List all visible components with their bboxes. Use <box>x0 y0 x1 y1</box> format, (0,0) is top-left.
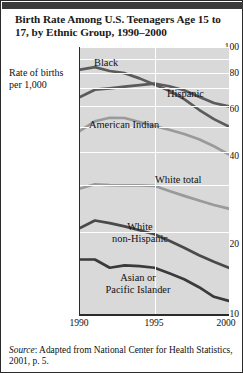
series-label-asian-pacific-islander-line2: Pacific Islander <box>106 284 171 295</box>
series-label-white-non-hispanic-line2: non-Hispanic <box>112 233 168 244</box>
source-text: : Adapted from National Center for Healt… <box>9 345 233 366</box>
series-label-asian-pacific-islander-line1: Asian or <box>120 272 156 283</box>
series-label-white-non-hispanic-line1: White <box>127 221 152 232</box>
source-prefix: Source <box>9 345 35 355</box>
plot-area: Black Hispanic American Indian White tot… <box>79 47 230 314</box>
series-label-hispanic: Hispanic <box>167 88 204 100</box>
x-tick-2000: 2000 <box>204 318 243 328</box>
x-tick-1995: 1995 <box>132 318 176 328</box>
series-label-white-non-hispanic: White non-Hispanic <box>98 221 182 244</box>
source-note: Source: Adapted from National Center for… <box>9 345 235 367</box>
series-label-white-total: White total <box>155 174 201 186</box>
x-tick-1990: 1990 <box>57 318 101 328</box>
series-label-american-indian: American Indian <box>89 119 159 131</box>
series-label-black: Black <box>94 57 118 69</box>
y-axis-label: Rate of births per 1,000 <box>9 67 71 92</box>
gridline-2000 <box>229 47 230 314</box>
x-axis-line <box>79 314 229 316</box>
figure-container: Birth Rate Among U.S. Teenagers Age 15 t… <box>0 0 243 373</box>
page-title: Birth Rate Among U.S. Teenagers Age 15 t… <box>15 13 235 39</box>
header-bar <box>2 2 243 9</box>
series-label-asian-pacific-islander: Asian or Pacific Islander <box>86 272 190 295</box>
